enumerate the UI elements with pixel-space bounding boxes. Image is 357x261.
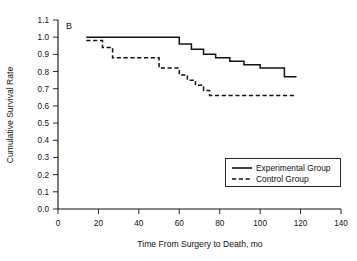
y-axis: 0.00.10.20.30.40.50.60.70.80.91.01.1 Cum…	[5, 16, 58, 214]
x-axis-title: Time From Surgery to Death, mo	[137, 239, 263, 249]
legend-label-control-group: Control Group	[256, 174, 309, 184]
y-tick-label: 0.0	[38, 205, 50, 214]
data-series-group	[86, 37, 296, 95]
y-tick-label: 1.0	[38, 33, 50, 42]
x-tick-label: 140	[334, 219, 348, 228]
y-tick-label: 0.7	[38, 85, 50, 94]
x-axis: 020406080100120140 Time From Surgery to …	[56, 209, 349, 249]
survival-curve-figure: 0.00.10.20.30.40.50.60.70.80.91.01.1 Cum…	[0, 0, 357, 261]
x-tick-label: 100	[253, 219, 267, 228]
x-tick-label: 120	[294, 219, 308, 228]
x-tick-label: 0	[56, 219, 61, 228]
x-tick-label: 40	[134, 219, 144, 228]
series-experimental-group	[86, 37, 296, 77]
x-tick-label: 80	[215, 219, 225, 228]
y-tick-label: 0.4	[38, 136, 50, 145]
y-tick-label: 0.8	[38, 68, 50, 77]
y-tick-label: 0.3	[38, 153, 50, 162]
y-tick-label: 1.1	[38, 16, 50, 25]
y-tick-label: 0.5	[38, 119, 50, 128]
y-tick-label: 0.2	[38, 171, 50, 180]
y-axis-tick-marks	[53, 20, 58, 209]
chart-canvas: 0.00.10.20.30.40.50.60.70.80.91.01.1 Cum…	[0, 0, 357, 261]
x-axis-tick-labels: 020406080100120140	[56, 219, 349, 228]
legend: Experimental Group Control Group	[226, 159, 341, 187]
panel-label: B	[66, 21, 72, 31]
y-tick-label: 0.6	[38, 102, 50, 111]
x-axis-tick-marks	[58, 209, 341, 214]
y-axis-tick-labels: 0.00.10.20.30.40.50.60.70.80.91.01.1	[38, 16, 50, 214]
y-tick-label: 0.1	[38, 188, 50, 197]
x-tick-label: 60	[175, 219, 185, 228]
legend-label-experimental-group: Experimental Group	[256, 163, 331, 173]
x-tick-label: 20	[94, 219, 104, 228]
y-axis-title: Cumulative Survival Rate	[5, 67, 15, 164]
y-tick-label: 0.9	[38, 50, 50, 59]
